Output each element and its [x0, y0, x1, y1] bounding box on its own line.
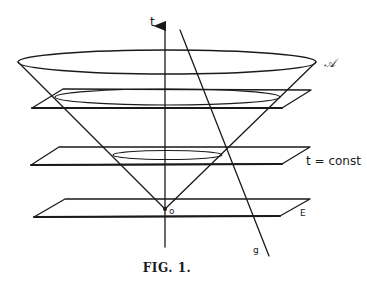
label-e: E: [300, 208, 306, 218]
worldline-g: [180, 30, 269, 256]
plane-t-const-front-edge: [31, 164, 282, 165]
label-origin: o: [169, 206, 175, 216]
label-t-const: t = const: [306, 154, 361, 168]
label-g: g: [253, 245, 259, 255]
label-cone-surface: 𝒜: [324, 56, 339, 70]
plane-t-const: [31, 147, 310, 165]
origin-point: [163, 207, 167, 211]
cone-top-ellipse: [18, 50, 316, 74]
cone-section-t-const: [113, 151, 222, 160]
light-cone-diagram: t 𝒜 t = const E o g FIG. 1.: [0, 0, 367, 283]
cone-left-edge: [18, 62, 165, 209]
cone-section-upper: [55, 89, 280, 105]
plane-e-front-edge: [34, 216, 280, 217]
figure-caption: FIG. 1.: [143, 261, 191, 275]
cone-right-edge: [165, 62, 316, 209]
label-t: t: [150, 15, 155, 29]
